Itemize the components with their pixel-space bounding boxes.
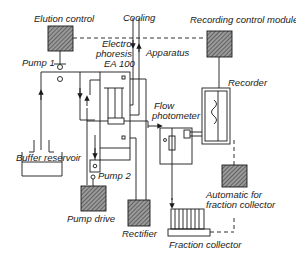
pump-drive-box xyxy=(81,186,106,211)
elution-control-box xyxy=(48,26,73,51)
cooling-label: Cooling xyxy=(123,13,155,23)
buffer-reservoir-label: Buffer reservoir xyxy=(16,153,81,163)
recording-control-box xyxy=(207,31,232,57)
fraction-collector-label: Fraction collector xyxy=(169,240,241,250)
automatic-fraction-box xyxy=(222,165,247,187)
electrophoresis-system-diagram xyxy=(0,0,296,262)
pump-drive-label: Pump drive xyxy=(67,214,115,224)
rectifier-box xyxy=(128,200,150,226)
pump2-label: Pump 2 xyxy=(98,171,131,181)
flow-photometer-label-2: photometer xyxy=(152,111,200,121)
flow-photometer-box xyxy=(160,128,192,164)
rectifier-label: Rectifier xyxy=(122,229,157,239)
automatic-label-2: fraction collector xyxy=(206,200,275,210)
pump1-label: Pump 1 xyxy=(22,58,55,68)
recording-control-label: Recording control module xyxy=(190,15,296,25)
recorder-box xyxy=(202,88,230,144)
elution-control-label: Elution control xyxy=(34,14,94,24)
electrophoresis-label-3: EA 100 xyxy=(104,59,135,69)
apparatus-label: Apparatus xyxy=(146,48,189,58)
recorder-label: Recorder xyxy=(228,78,267,88)
